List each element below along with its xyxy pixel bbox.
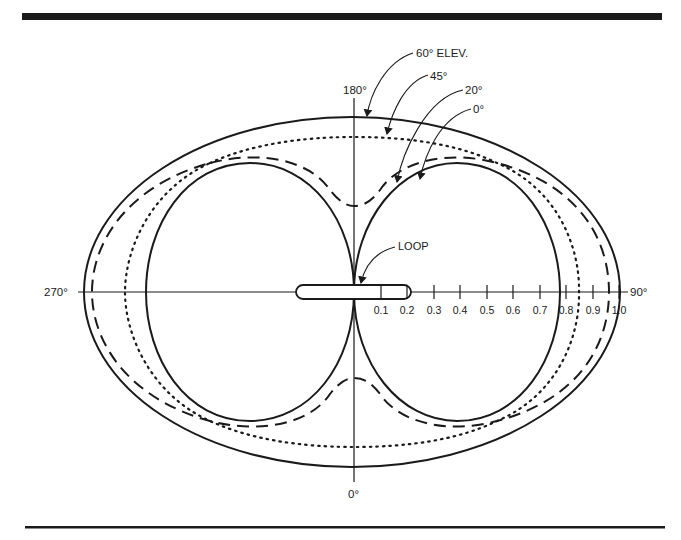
label-20: 20° — [465, 84, 482, 96]
label-60-elev: 60° ELEV. — [416, 47, 468, 59]
tick-label-1.0: 1.0 — [612, 304, 627, 316]
tick-label-0.2: 0.2 — [400, 304, 415, 316]
axis-label-180: 180° — [343, 84, 367, 96]
tick-label-0.5: 0.5 — [480, 304, 495, 316]
axis-label-90: 90° — [630, 286, 647, 298]
arrow-60-elev — [367, 53, 413, 116]
tick-label-0.9: 0.9 — [586, 304, 601, 316]
radiation-pattern-diagram: 0.1 0.2 0.3 0.4 0.5 0.6 0.7 0.8 0.9 1.0 … — [0, 0, 681, 540]
tick-label-0.3: 0.3 — [427, 304, 442, 316]
axis-label-270: 270° — [44, 286, 68, 298]
tick-label-0.4: 0.4 — [453, 304, 468, 316]
arrow-loop — [361, 247, 395, 283]
label-loop: LOOP — [398, 240, 429, 252]
tick-label-0.8: 0.8 — [559, 304, 574, 316]
arrow-45 — [387, 75, 428, 134]
tick-label-0.1: 0.1 — [374, 304, 389, 316]
label-0: 0° — [473, 103, 484, 115]
bottom-rule — [25, 526, 665, 529]
loop-antenna-shape — [296, 285, 411, 299]
top-rule — [22, 13, 662, 20]
tick-label-0.7: 0.7 — [533, 304, 548, 316]
tick-label-0.6: 0.6 — [506, 304, 521, 316]
label-45: 45° — [430, 70, 447, 82]
axis-label-0: 0° — [348, 488, 359, 500]
